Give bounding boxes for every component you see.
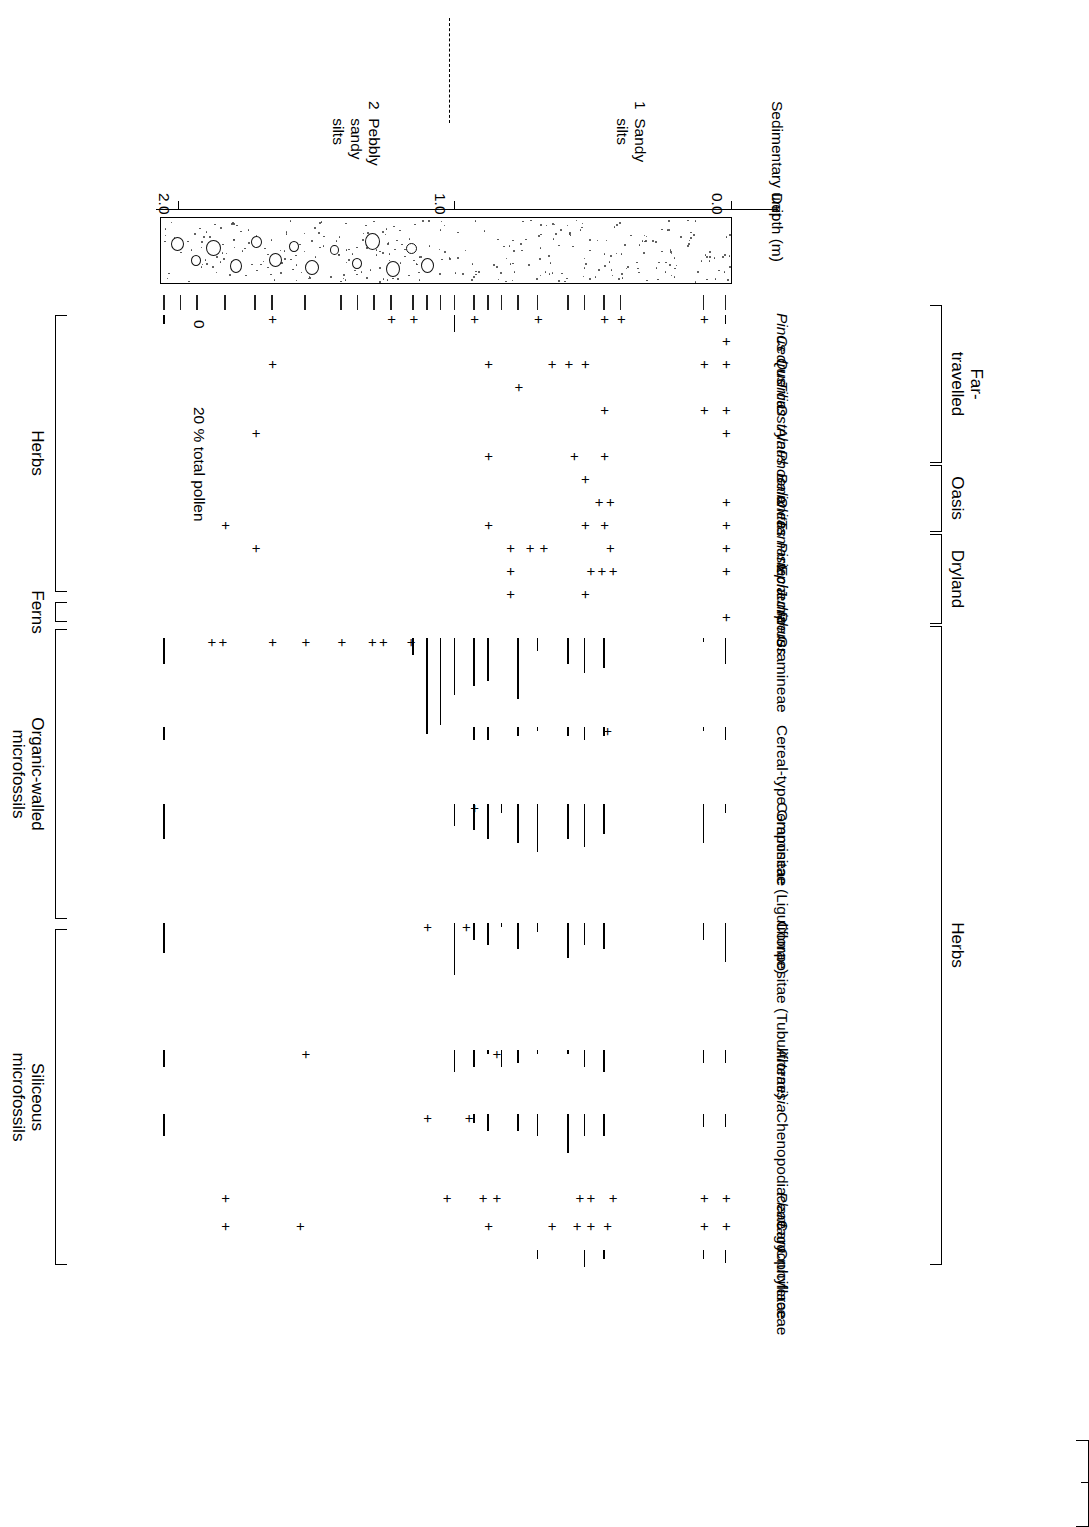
stipple-dot	[636, 262, 638, 264]
group-bracket	[55, 929, 67, 1265]
sample-tick	[517, 295, 519, 310]
stipple-dot	[167, 278, 169, 280]
stipple-dot	[643, 252, 645, 254]
stipple-dot	[500, 272, 502, 274]
stipple-dot	[264, 248, 266, 250]
stipple-dot	[584, 267, 586, 269]
stipple-dot	[497, 239, 499, 241]
presence-plus-marker: +	[595, 496, 604, 511]
presence-plus-marker: +	[722, 404, 731, 419]
pollen-bar	[517, 804, 519, 843]
stipple-dot	[612, 275, 614, 277]
pollen-bar	[725, 923, 727, 962]
pebble-symbol	[269, 253, 282, 267]
stipple-dot	[290, 259, 292, 261]
stipple-dot	[165, 228, 167, 230]
stipple-dot	[690, 232, 692, 234]
stipple-dot	[220, 261, 222, 263]
presence-plus-marker: +	[515, 381, 524, 396]
stipple-dot	[475, 221, 477, 223]
presence-plus-marker: +	[575, 1192, 584, 1207]
pollen-diagram: 0.01.02.0Depth (m)Sedimentary unit1 Sand…	[0, 0, 1089, 1527]
pollen-bar	[567, 727, 569, 736]
pollen-bar	[163, 638, 165, 664]
presence-plus-marker: +	[526, 542, 535, 557]
stipple-dot	[548, 255, 550, 257]
stipple-dot	[234, 247, 236, 249]
stipple-dot	[229, 274, 231, 276]
stipple-dot	[233, 239, 235, 241]
sample-tick	[390, 295, 392, 310]
taxon-label: Artemisia	[775, 1048, 791, 1113]
stipple-dot	[396, 240, 398, 242]
pollen-bar	[584, 804, 586, 848]
rotated-figure-wrapper: 0.01.02.0Depth (m)Sedimentary unit1 Sand…	[0, 0, 1089, 1527]
pollen-bar	[517, 923, 519, 949]
pollen-bar	[703, 804, 705, 843]
stipple-dot	[693, 234, 695, 236]
stipple-dot	[695, 281, 697, 283]
stipple-dot	[361, 271, 363, 273]
stipple-dot	[597, 240, 599, 242]
sample-tick	[426, 295, 428, 310]
stipple-dot	[428, 220, 430, 222]
stipple-dot	[251, 264, 253, 266]
stipple-dot	[245, 275, 247, 277]
group-bracket	[930, 465, 942, 532]
stipple-dot	[689, 240, 691, 242]
presence-plus-marker: +	[221, 519, 230, 534]
stipple-dot	[726, 236, 728, 238]
presence-plus-marker: +	[252, 542, 261, 557]
stipple-dot	[671, 253, 673, 255]
stipple-dot	[386, 228, 388, 230]
presence-plus-marker: +	[722, 427, 731, 442]
sample-tick	[725, 295, 727, 310]
stipple-dot	[345, 279, 347, 281]
stipple-dot	[304, 251, 306, 253]
pebble-symbol	[386, 261, 400, 277]
stipple-dot	[567, 225, 569, 227]
sample-tick	[537, 295, 539, 310]
stipple-dot	[414, 224, 416, 226]
stipple-dot	[373, 221, 375, 223]
stipple-dot	[290, 220, 292, 222]
pollen-bar	[501, 923, 503, 927]
stipple-dot	[674, 276, 676, 278]
depth-tick-label: 0.0	[708, 193, 726, 215]
stipple-dot	[392, 278, 394, 280]
stipple-dot	[528, 264, 530, 266]
stipple-dot	[665, 271, 667, 273]
presence-plus-marker: +	[492, 1048, 501, 1063]
stipple-dot	[589, 250, 591, 252]
stipple-dot	[701, 260, 703, 262]
presence-plus-marker: +	[581, 358, 590, 373]
stipple-dot	[674, 257, 676, 259]
pollen-bar	[163, 315, 165, 324]
stipple-dot	[646, 280, 648, 282]
pollen-bar	[567, 1114, 569, 1153]
stipple-dot	[727, 279, 729, 281]
stipple-dot	[284, 258, 286, 260]
stipple-dot	[512, 263, 514, 265]
stipple-dot	[610, 255, 612, 257]
pollen-bar	[725, 1050, 727, 1063]
group-label: Ferns	[28, 590, 47, 633]
stipple-dot	[530, 220, 532, 222]
group-label: Dryland	[948, 550, 967, 609]
presence-plus-marker: +	[379, 636, 388, 651]
stipple-dot	[389, 253, 391, 255]
presence-plus-marker: +	[465, 1112, 474, 1127]
stipple-dot	[509, 245, 511, 247]
sample-tick	[254, 295, 256, 310]
lithology-stipple	[161, 218, 731, 283]
stipple-dot	[281, 262, 283, 264]
stipple-dot	[441, 259, 443, 261]
pollen-bar	[537, 804, 539, 852]
presence-plus-marker: +	[407, 636, 416, 651]
stipple-dot	[718, 270, 720, 272]
stipple-dot	[315, 256, 317, 258]
pollen-bar	[473, 727, 475, 740]
stipple-dot	[222, 252, 224, 254]
stipple-dot	[343, 274, 345, 276]
stipple-dot	[336, 240, 338, 242]
